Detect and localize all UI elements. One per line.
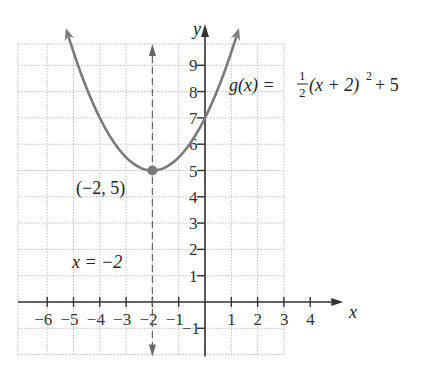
- y-tick-label: −1: [182, 319, 200, 338]
- x-tick-label: 2: [254, 310, 263, 329]
- y-tick-label: 7: [189, 109, 198, 128]
- function-exponent: 2: [366, 69, 372, 83]
- fraction-denominator: 2: [299, 85, 306, 100]
- x-tick-label: 1: [227, 310, 236, 329]
- symmetry-up-arrow-icon: [149, 44, 156, 56]
- y-tick-label: 2: [189, 240, 198, 259]
- axis-symmetry-label: x = −2: [71, 252, 122, 272]
- y-axis-arrow-icon: [201, 24, 209, 37]
- x-tick-label: −5: [61, 310, 79, 329]
- vertex-point: [147, 166, 157, 176]
- parabola-chart: −6−5−4−3−2−11234−1123456789 y x (−2, 5) …: [0, 0, 423, 372]
- svg-text:g(x) =: g(x) =: [229, 75, 275, 96]
- axes: [18, 24, 343, 357]
- function-base: (x + 2): [309, 75, 359, 96]
- function-lhs: g(x) =: [229, 75, 275, 96]
- x-axis-arrow-icon: [331, 298, 343, 306]
- x-tick-label: −3: [113, 310, 131, 329]
- y-axis-label: y: [191, 19, 201, 39]
- y-tick-label: 1: [189, 267, 198, 286]
- x-tick-label: 4: [306, 310, 315, 329]
- y-tick-label: 5: [189, 162, 198, 181]
- y-tick-label: 8: [189, 83, 198, 102]
- vertex-label: (−2, 5): [76, 178, 125, 199]
- x-axis-label: x: [348, 302, 357, 322]
- axis-symmetry-text: x = −2: [71, 252, 122, 272]
- y-tick-label: 9: [189, 56, 198, 75]
- x-tick-label: −2: [139, 310, 157, 329]
- y-tick-label: 3: [189, 214, 198, 233]
- x-tick-label: −6: [34, 310, 52, 329]
- x-tick-label: 3: [280, 310, 289, 329]
- function-label: g(x) = 1 2 (x + 2) 2 + 5: [229, 68, 399, 100]
- symmetry-down-arrow-icon: [149, 345, 156, 357]
- x-tick-label: −4: [87, 310, 106, 329]
- fraction-numerator: 1: [299, 68, 306, 83]
- y-tick-label: 4: [189, 188, 198, 207]
- function-tail: + 5: [375, 75, 399, 95]
